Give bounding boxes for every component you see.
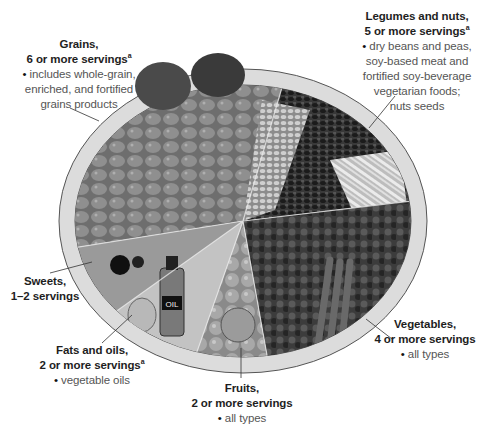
- fruits-title: Fruits,: [180, 381, 304, 396]
- bread-loaf: [191, 53, 245, 97]
- fruits-note: all types: [180, 411, 304, 426]
- fats-title: Fats and oils,: [30, 343, 154, 358]
- grains-servings: 6 or more servings: [27, 53, 128, 65]
- grains-title: Grains,: [2, 37, 156, 52]
- oil-bottle-label: OIL: [166, 300, 179, 309]
- sweets-title: Sweets,: [2, 274, 88, 289]
- legumes-note: nuts seeds: [356, 99, 478, 114]
- legumes-note: dry beans and peas,: [356, 39, 478, 54]
- grains-note: includes whole-grain,: [2, 67, 156, 82]
- vegetables-label: Vegetables, 4 or more servings all types: [372, 317, 478, 362]
- fats-servings: 2 or more servings: [40, 359, 141, 371]
- fruits-servings: 2 or more servings: [180, 396, 304, 411]
- legumes-title: Legumes and nuts,: [356, 9, 478, 24]
- legumes-note: fortified soy-beverage: [356, 69, 478, 84]
- footnote-marker: a: [466, 24, 470, 31]
- legumes-servings: 5 or more servings: [365, 25, 466, 37]
- vegetarian-food-plate-diagram: OIL Grains, 6 or more servingsa includes…: [0, 0, 478, 438]
- vegetables-servings: 4 or more servings: [372, 332, 478, 347]
- footnote-marker: a: [141, 358, 145, 365]
- legumes-label: Legumes and nuts, 5 or more servingsa dr…: [356, 9, 478, 114]
- grains-note: grains products: [2, 97, 156, 112]
- sweets-servings: 1–2 servings: [2, 289, 88, 304]
- legumes-note: vegetarian foods;: [356, 84, 478, 99]
- fats-label: Fats and oils, 2 or more servingsa veget…: [30, 343, 154, 388]
- fruits-label: Fruits, 2 or more servings all types: [180, 381, 304, 426]
- legumes-note: soy-based meat and: [356, 54, 478, 69]
- sweets-label: Sweets, 1–2 servings: [2, 274, 88, 304]
- vegetables-note: all types: [372, 347, 478, 362]
- fats-note: vegetable oils: [30, 373, 154, 388]
- footnote-marker: a: [128, 52, 132, 59]
- grains-note: enriched, and fortified: [2, 82, 156, 97]
- grains-label: Grains, 6 or more servingsa includes who…: [2, 37, 156, 112]
- vegetables-title: Vegetables,: [372, 317, 478, 332]
